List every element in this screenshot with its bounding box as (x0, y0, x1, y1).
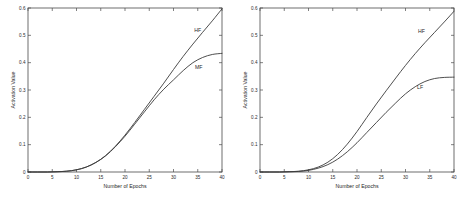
x-tick-label: 10 (306, 175, 312, 180)
chart-panel-right: 051015202530354000.10.20.30.40.50.6Numbe… (232, 0, 465, 197)
y-tick-label: 0.5 (251, 33, 258, 38)
y-tick-label: 0.4 (251, 60, 258, 65)
curve-label-hf: HF (418, 28, 425, 34)
curve-label-mf: MF (195, 64, 203, 70)
y-tick-label: 0 (255, 170, 258, 175)
chart-panel-left: 051015202530354000.10.20.30.40.50.6Numbe… (0, 0, 233, 197)
y-tick-label: 0.4 (19, 60, 26, 65)
y-tick-label: 0.6 (251, 6, 258, 11)
chart-svg-right: 051015202530354000.10.20.30.40.50.6Numbe… (232, 0, 465, 197)
x-tick-label: 25 (147, 175, 153, 180)
curve-lf (260, 77, 454, 172)
x-tick-label: 35 (195, 175, 201, 180)
x-tick-label: 15 (98, 175, 104, 180)
y-tick-label: 0.2 (19, 115, 26, 120)
curve-hf (260, 11, 454, 172)
plot-box-outline (28, 8, 222, 172)
y-tick-label: 0.2 (251, 115, 258, 120)
y-axis-title: Activation Value (242, 71, 248, 108)
x-tick-label: 20 (354, 175, 360, 180)
figure-canvas: 051015202530354000.10.20.30.40.50.6Numbe… (0, 0, 465, 197)
curve-mf (28, 53, 222, 172)
x-tick-label: 35 (427, 175, 433, 180)
y-tick-label: 0 (23, 170, 26, 175)
curve-label-lf: LF (417, 84, 423, 90)
chart-svg-left: 051015202530354000.10.20.30.40.50.6Numbe… (0, 0, 233, 197)
labels-right: 051015202530354000.10.20.30.40.50.6Numbe… (242, 6, 457, 189)
curve-hf (28, 9, 222, 172)
x-tick-label: 30 (403, 175, 409, 180)
y-tick-label: 0.1 (251, 142, 258, 147)
y-axis-title: Activation Value (10, 71, 16, 108)
x-tick-label: 25 (379, 175, 385, 180)
y-tick-label: 0.6 (19, 6, 26, 11)
y-tick-label: 0.3 (19, 88, 26, 93)
x-tick-label: 5 (283, 175, 286, 180)
x-axis-title: Number of Epochs (336, 183, 379, 189)
x-tick-label: 10 (74, 175, 80, 180)
axes-left (28, 8, 222, 172)
labels-left: 051015202530354000.10.20.30.40.50.6Numbe… (10, 6, 225, 189)
x-tick-label: 20 (122, 175, 128, 180)
x-axis-title: Number of Epochs (104, 183, 147, 189)
x-tick-label: 30 (171, 175, 177, 180)
y-tick-label: 0.5 (19, 33, 26, 38)
curves-left (28, 9, 222, 172)
x-tick-label: 0 (27, 175, 30, 180)
curve-label-hf: HF (194, 27, 201, 33)
y-tick-label: 0.1 (19, 142, 26, 147)
curves-right (260, 11, 454, 172)
y-tick-label: 0.3 (251, 88, 258, 93)
x-tick-label: 0 (259, 175, 262, 180)
x-tick-label: 5 (51, 175, 54, 180)
x-tick-label: 40 (451, 175, 457, 180)
x-tick-label: 15 (330, 175, 336, 180)
x-tick-label: 40 (219, 175, 225, 180)
